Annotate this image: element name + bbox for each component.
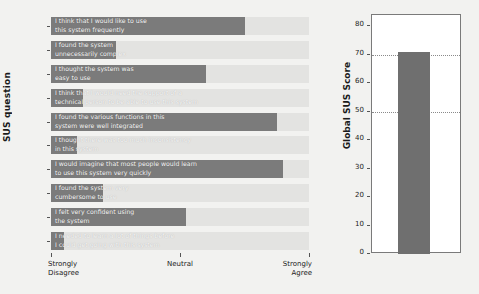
right-chart-y-tick-mark [367, 168, 370, 169]
sus-question-text: I needed to learn a lot of things before… [55, 232, 174, 250]
right-chart-y-tick-mark [367, 82, 370, 83]
sus-question-row: I felt very confident using the system [51, 208, 309, 226]
sus-question-chart: SUS question I think that I would like t… [0, 0, 336, 294]
left-chart-x-tick-label: Neutral [160, 260, 200, 269]
left-chart-x-tick-mark [180, 253, 181, 257]
right-chart-y-tick-mark [367, 25, 370, 26]
left-chart-y-axis-label: SUS question [2, 72, 16, 142]
sus-question-text: I think that I would need the support of… [55, 89, 198, 107]
sus-question-text: I found the system unnecessarily complex [55, 41, 126, 59]
sus-question-row: I found the system very cumbersome to us… [51, 184, 309, 202]
left-chart-y-tick-mark [47, 145, 50, 146]
right-chart-y-tick-mark [367, 111, 370, 112]
sus-question-row: I found the system unnecessarily complex [51, 41, 309, 59]
global-sus-score-bar [398, 52, 430, 254]
right-chart-y-tick-label: 50 [344, 106, 364, 114]
sus-question-row: I found the various functions in this sy… [51, 113, 309, 131]
left-chart-y-tick-mark [47, 193, 50, 194]
right-chart-y-tick-mark [367, 225, 370, 226]
right-chart-y-tick-label: 10 [344, 220, 364, 228]
right-chart-y-tick-label: 40 [344, 134, 364, 142]
sus-question-row: I thought the system was easy to use [51, 65, 309, 83]
left-chart-x-tick-label: Strongly Agree [275, 260, 312, 278]
sus-figure: SUS question I think that I would like t… [0, 0, 479, 294]
sus-question-row: I think that I would need the support of… [51, 89, 309, 107]
right-chart-plot-area [371, 14, 461, 253]
sus-question-text: I would imagine that most people would l… [55, 160, 197, 178]
global-sus-score-chart: Global SUS Score 01020304050607080 [336, 0, 479, 294]
sus-question-row: I would imagine that most people would l… [51, 160, 309, 178]
left-chart-x-tick-mark [309, 253, 310, 257]
right-chart-y-tick-label: 70 [344, 49, 364, 57]
left-chart-x-tick-mark [51, 253, 52, 257]
right-chart-y-tick-label: 20 [344, 191, 364, 199]
right-chart-y-tick-mark [367, 54, 370, 55]
sus-question-row: I think that I would like to use this sy… [51, 17, 309, 35]
right-chart-y-tick-label: 60 [344, 77, 364, 85]
left-chart-y-tick-mark [47, 98, 50, 99]
sus-question-text: I found the system very cumbersome to us… [55, 184, 129, 202]
left-chart-y-tick-mark [47, 74, 50, 75]
right-chart-y-tick-label: 0 [344, 248, 364, 256]
sus-question-row: I needed to learn a lot of things before… [51, 232, 309, 250]
sus-question-text: I felt very confident using the system [55, 208, 134, 226]
right-chart-y-tick-label: 30 [344, 163, 364, 171]
left-chart-y-tick-mark [47, 50, 50, 51]
left-chart-y-tick-mark [47, 122, 50, 123]
left-chart-plot-area: I think that I would like to use this sy… [51, 14, 309, 253]
left-chart-y-tick-mark [47, 169, 50, 170]
sus-question-text: I think that I would like to use this sy… [55, 17, 147, 35]
right-chart-y-tick-mark [367, 253, 370, 254]
right-chart-y-tick-label: 80 [344, 20, 364, 28]
left-chart-y-tick-mark [47, 26, 50, 27]
right-chart-y-tick-mark [367, 196, 370, 197]
right-chart-y-tick-mark [367, 139, 370, 140]
left-chart-y-tick-mark [47, 217, 50, 218]
sus-question-text: I found the various functions in this sy… [55, 113, 165, 131]
sus-question-text: I thought the system was easy to use [55, 65, 134, 83]
left-chart-y-tick-mark [47, 241, 50, 242]
left-chart-x-tick-label: Strongly Disagree [48, 260, 79, 278]
sus-question-row: I thought there was too much inconsisten… [51, 136, 309, 154]
sus-question-text: I thought there was too much inconsisten… [55, 136, 191, 154]
